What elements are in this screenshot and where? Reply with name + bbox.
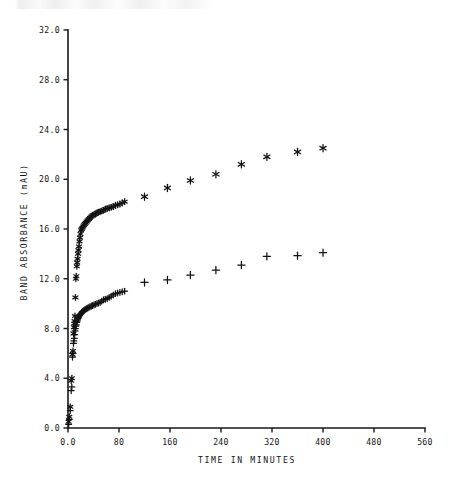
- y-tick-label: 12.0: [39, 274, 60, 284]
- y-tick-label: 8.0: [44, 324, 60, 334]
- y-tick-label: 4.0: [44, 373, 60, 383]
- y-tick-label: 0.0: [44, 423, 60, 433]
- x-tick-label: 400: [315, 437, 331, 447]
- y-tick-label: 20.0: [39, 174, 60, 184]
- x-tick-label: 0.0: [60, 437, 76, 447]
- x-tick-labels: 0.080160240320400480560: [60, 437, 433, 447]
- x-tick-label: 320: [264, 437, 280, 447]
- axes-group: [68, 30, 425, 428]
- scatter-plot: 0.080160240320400480560 0.04.08.012.016.…: [0, 0, 449, 478]
- y-tick-label: 32.0: [39, 25, 60, 35]
- figure-container: 0.080160240320400480560 0.04.08.012.016.…: [0, 0, 449, 478]
- tick-marks: [64, 30, 426, 433]
- series-lower-curve: [66, 249, 327, 427]
- x-tick-label: 480: [366, 437, 382, 447]
- x-tick-label: 80: [114, 437, 124, 447]
- x-tick-label: 560: [417, 437, 433, 447]
- y-tick-labels: 0.04.08.012.016.020.024.028.032.0: [39, 25, 60, 433]
- series-upper-curve: [66, 145, 326, 425]
- x-tick-label: 160: [162, 437, 178, 447]
- y-tick-label: 28.0: [39, 75, 60, 85]
- x-axis-title: TIME IN MINUTES: [198, 455, 296, 465]
- y-tick-label: 24.0: [39, 125, 60, 135]
- x-tick-label: 240: [213, 437, 229, 447]
- y-axis-title: BAND ABSORBANCE (mAU): [19, 163, 29, 300]
- y-tick-label: 16.0: [39, 224, 60, 234]
